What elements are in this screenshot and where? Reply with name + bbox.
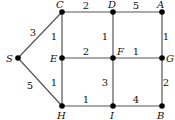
node-c: [59, 9, 65, 15]
edge-weight-e-h: 1: [51, 77, 57, 88]
node-label-e: E: [49, 53, 58, 64]
edges-layer: [18, 12, 162, 106]
edge-weight-g-b: 2: [163, 77, 169, 88]
node-f: [110, 55, 116, 61]
node-label-i: I: [109, 110, 115, 120]
node-label-a: A: [156, 0, 164, 10]
nodes-layer: [15, 9, 165, 109]
node-label-h: H: [56, 110, 66, 120]
edge-weight-d-a: 5: [133, 0, 139, 11]
edge-weight-s-h: 5: [27, 80, 33, 91]
node-label-g: G: [166, 53, 174, 64]
node-label-c: C: [56, 0, 64, 10]
node-label-b: B: [156, 110, 164, 120]
node-s: [15, 55, 21, 61]
node-d: [110, 9, 116, 15]
edge-weight-c-e: 1: [51, 31, 57, 42]
edge-weight-d-f: 1: [102, 31, 108, 42]
node-i: [110, 103, 116, 109]
edge-weight-i-b: 4: [133, 94, 139, 105]
node-a: [159, 9, 165, 15]
node-label-d: D: [107, 0, 116, 10]
node-label-s: S: [6, 53, 13, 64]
edge-weight-s-c: 3: [30, 27, 36, 38]
edge-weights-layer: 35251112113214: [27, 0, 169, 105]
edge-weight-e-f: 2: [83, 46, 89, 57]
edge-weight-c-d: 2: [83, 0, 89, 11]
edge-weight-f-g: 1: [133, 46, 139, 57]
edge-weight-h-i: 1: [83, 94, 89, 105]
node-h: [59, 103, 65, 109]
edge-weight-a-g: 1: [163, 31, 169, 42]
node-b: [159, 103, 165, 109]
node-labels-layer: SCDAEFGHIB: [6, 0, 174, 120]
node-g: [159, 55, 165, 61]
node-e: [59, 55, 65, 61]
node-label-f: F: [116, 46, 125, 57]
edge-weight-f-i: 3: [102, 77, 108, 88]
graph-diagram: 35251112113214 SCDAEFGHIB: [0, 0, 175, 120]
